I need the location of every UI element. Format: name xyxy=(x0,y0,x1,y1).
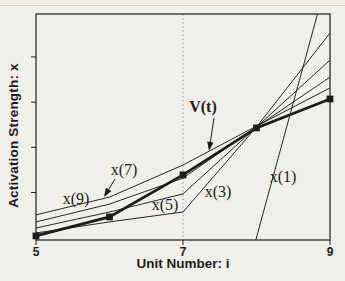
figure-canvas: 579V(t)x(7)x(9)x(5)x(3)x(1) Activation S… xyxy=(0,0,345,281)
curve-label-x3: x(3) xyxy=(205,183,232,201)
annotation-arrowhead-x7 xyxy=(104,188,111,197)
marker-square-3 xyxy=(253,125,260,132)
marker-square-2 xyxy=(180,172,187,179)
curve-label-x9: x(9) xyxy=(63,190,90,208)
series-line-x1 xyxy=(256,14,318,240)
x-axis-title: Unit Number: i xyxy=(108,256,258,273)
marker-square-0 xyxy=(33,233,40,240)
x-tick-label-5: 5 xyxy=(33,245,40,259)
y-axis-title: Activation Strength: x xyxy=(6,61,23,211)
annotation-arrow-Vt xyxy=(210,118,214,142)
curve-label-x7: x(7) xyxy=(111,161,138,179)
plot-svg: 579V(t)x(7)x(9)x(5)x(3)x(1) xyxy=(0,0,345,281)
curve-label-Vt: V(t) xyxy=(189,98,217,116)
x-tick-label-9: 9 xyxy=(327,245,334,259)
marker-square-4 xyxy=(327,96,334,103)
annotation-arrow-x7 xyxy=(109,179,115,189)
curve-label-x5: x(5) xyxy=(152,196,179,214)
marker-square-1 xyxy=(106,214,113,221)
curve-label-x1: x(1) xyxy=(270,168,297,186)
